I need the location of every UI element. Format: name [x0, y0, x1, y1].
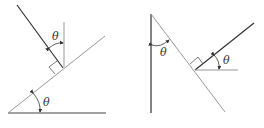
theta-label-right: θ [223, 54, 230, 67]
left-diagram: θ θ [8, 5, 106, 113]
slanted-line [151, 14, 225, 112]
angle-arc-left [152, 40, 169, 46]
right-angle-marker [190, 57, 203, 64]
incline-line [8, 36, 105, 113]
angle-arc-bottom [33, 93, 40, 112]
right-angle-marker [49, 61, 57, 74]
angle-arc-top [49, 43, 63, 48]
theta-label-bottom: θ [43, 96, 50, 109]
theta-label-top: θ [52, 30, 59, 43]
right-diagram: θ θ [151, 14, 254, 113]
angle-arc-right [214, 55, 219, 69]
geometry-figure: θ θ θ θ [0, 0, 264, 128]
theta-label-left: θ [160, 46, 167, 59]
